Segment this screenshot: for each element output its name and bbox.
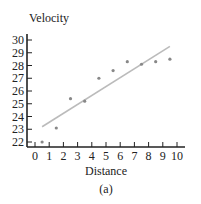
x-tick-label: 10 bbox=[171, 149, 183, 163]
x-tick-label: 2 bbox=[60, 149, 66, 163]
y-axis-ticks: 222324252627282930 bbox=[12, 33, 32, 149]
x-tick-label: 0 bbox=[32, 149, 38, 163]
data-point bbox=[168, 58, 171, 61]
y-tick-label: 29 bbox=[12, 46, 24, 60]
y-tick-label: 27 bbox=[12, 71, 24, 85]
data-point bbox=[112, 69, 115, 72]
y-tick-label: 23 bbox=[12, 122, 24, 136]
trend-line bbox=[42, 46, 170, 126]
x-tick-label: 5 bbox=[103, 149, 109, 163]
x-tick-label: 3 bbox=[75, 149, 81, 163]
x-axis-label: Distance bbox=[85, 164, 127, 178]
data-point bbox=[154, 60, 157, 63]
y-tick-label: 25 bbox=[12, 97, 24, 111]
x-tick-label: 9 bbox=[160, 149, 166, 163]
data-point bbox=[97, 77, 100, 80]
y-tick-label: 24 bbox=[12, 110, 24, 124]
data-points bbox=[41, 58, 172, 144]
x-tick-label: 1 bbox=[46, 149, 52, 163]
x-tick-label: 8 bbox=[146, 149, 152, 163]
data-point bbox=[83, 100, 86, 103]
y-axis-label: Velocity bbox=[29, 11, 69, 25]
figure-caption: (a) bbox=[99, 182, 112, 196]
data-point bbox=[69, 97, 72, 100]
y-tick-label: 30 bbox=[12, 33, 24, 47]
data-point bbox=[41, 140, 44, 143]
x-tick-label: 6 bbox=[117, 149, 123, 163]
data-point bbox=[126, 60, 129, 63]
data-point bbox=[55, 126, 58, 129]
y-tick-label: 28 bbox=[12, 59, 24, 73]
x-tick-label: 7 bbox=[131, 149, 137, 163]
y-tick-label: 26 bbox=[12, 84, 24, 98]
data-point bbox=[140, 63, 143, 66]
x-axis-ticks: 012345678910 bbox=[32, 142, 183, 163]
x-tick-label: 4 bbox=[89, 149, 95, 163]
y-tick-label: 22 bbox=[12, 135, 24, 149]
scatter-chart: Velocity 222324252627282930 012345678910… bbox=[0, 0, 201, 204]
